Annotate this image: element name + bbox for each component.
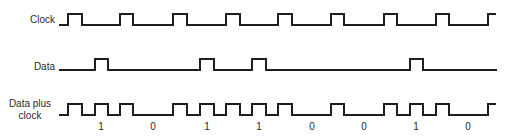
data-plus-clock-waveform bbox=[59, 104, 496, 115]
timing-diagram: Clock Data Data plus clock 1 0 1 1 0 0 1… bbox=[0, 0, 509, 138]
bit-label: 1 bbox=[253, 121, 265, 133]
bit-label: 1 bbox=[201, 121, 213, 133]
clock-waveform bbox=[59, 14, 496, 25]
waveforms bbox=[0, 0, 509, 138]
data-waveform bbox=[59, 59, 497, 70]
bit-label: 0 bbox=[306, 121, 318, 133]
bit-label: 0 bbox=[462, 121, 474, 133]
bit-label: 1 bbox=[95, 121, 107, 133]
bit-label: 0 bbox=[358, 121, 370, 133]
bit-label: 0 bbox=[147, 121, 159, 133]
bit-label: 1 bbox=[410, 121, 422, 133]
